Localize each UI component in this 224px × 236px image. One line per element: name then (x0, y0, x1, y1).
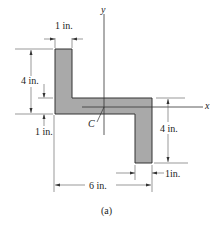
dim-right-flange-height: 4 in. (160, 124, 178, 134)
dim-left-flange-height: 4 in. (21, 76, 39, 86)
dim-overall-width: 6 in. (89, 181, 107, 191)
z-section-diagram (0, 0, 224, 236)
y-axis-label: y (101, 5, 105, 15)
dim-right-flange-width: 1in. (165, 169, 180, 179)
z-section-shape (55, 49, 152, 163)
dim-web-thickness: 1 in. (35, 127, 53, 137)
figure-caption: (a) (101, 206, 112, 216)
x-axis-label: x (205, 101, 209, 111)
dim-top-flange-width: 1 in. (55, 21, 73, 31)
centroid-label: C (88, 119, 95, 129)
figure: 1 in. 4 in. 1 in. 4 in. 1in. 6 in. y x C… (0, 0, 224, 236)
